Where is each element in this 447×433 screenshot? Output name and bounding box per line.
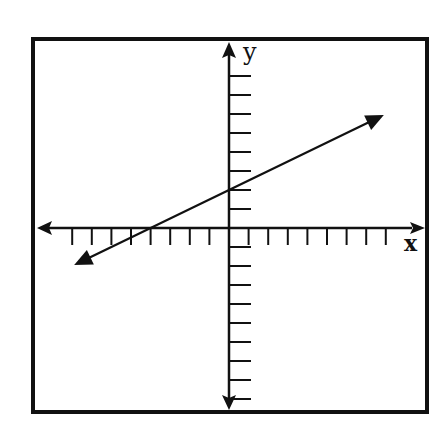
- coordinate-plane: x y: [0, 0, 447, 433]
- x-axis-label: x: [404, 230, 418, 256]
- axes: [37, 42, 425, 410]
- coordinate-plane-figure: x y: [0, 0, 447, 433]
- y-axis-label: y: [242, 38, 257, 66]
